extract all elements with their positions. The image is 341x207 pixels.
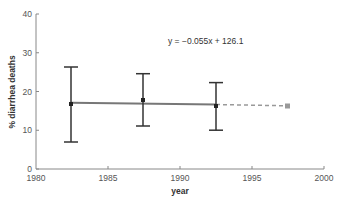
- x-tick-label: 2000: [315, 173, 334, 183]
- y-tick-label: 10: [23, 125, 33, 135]
- y-axis-title: % diarrhea deaths: [7, 55, 17, 128]
- data-point: [141, 98, 145, 102]
- y-tick-label: 30: [23, 48, 33, 58]
- y-tick-label: 40: [23, 9, 33, 19]
- data-point: [214, 104, 218, 108]
- y-tick-label: 20: [23, 87, 33, 97]
- x-tick-label: 1990: [171, 173, 190, 183]
- regression-equation: y = −0.055x + 126.1: [168, 36, 244, 46]
- data-point: [69, 102, 73, 106]
- y-ticks: 0 10 20 30 40: [23, 9, 39, 174]
- x-axis-title: year: [171, 186, 189, 196]
- projection-end-marker: [285, 104, 290, 109]
- x-tick-label: 1985: [99, 173, 118, 183]
- chart: 0 10 20 30 40 1980 1985 1990 1995 2000 y…: [0, 0, 341, 207]
- x-tick-label: 1995: [243, 173, 262, 183]
- x-tick-label: 1980: [27, 173, 46, 183]
- projection-line: [216, 105, 288, 106]
